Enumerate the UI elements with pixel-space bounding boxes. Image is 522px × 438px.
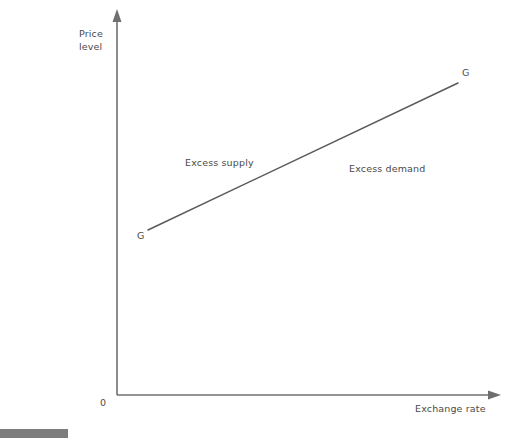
- x-axis-arrow-icon: [488, 391, 501, 400]
- y-axis-label: Pricelevel: [79, 28, 103, 53]
- origin-label: 0: [100, 397, 106, 410]
- footer-progress-bar: [0, 429, 68, 438]
- curve-label-upper-right: G: [462, 67, 470, 80]
- y-axis-label-line1: Price: [79, 28, 103, 39]
- diagram-canvas: [0, 0, 522, 438]
- gg-schedule-figure: Pricelevel Exchange rate 0 G G Excess su…: [0, 0, 522, 438]
- y-axis-label-line2: level: [79, 41, 102, 52]
- region-label-excess-supply: Excess supply: [185, 157, 254, 170]
- y-axis-arrow-icon: [113, 9, 122, 22]
- region-label-excess-demand: Excess demand: [349, 163, 425, 176]
- curve-label-lower-left: G: [137, 230, 145, 243]
- x-axis-label: Exchange rate: [415, 403, 486, 416]
